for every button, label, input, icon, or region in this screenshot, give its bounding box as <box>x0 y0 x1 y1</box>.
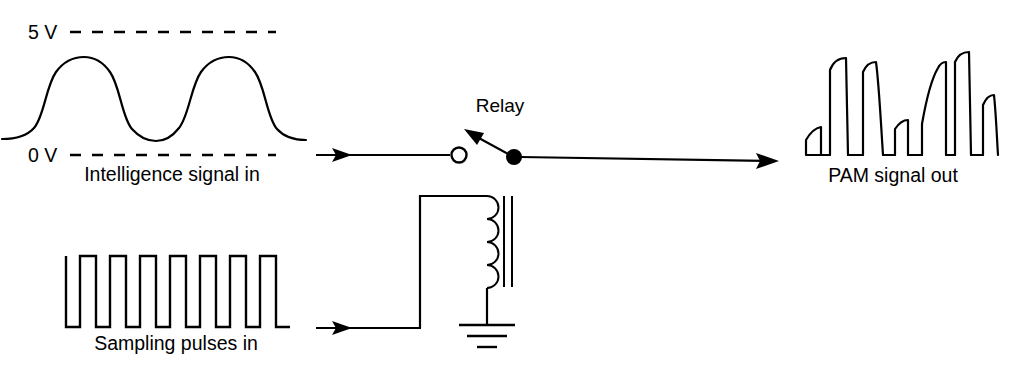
pam-pulse-1 <box>806 127 821 155</box>
relay-coil-icon <box>487 196 499 288</box>
pam-pulse-6 <box>955 52 971 155</box>
intelligence-signal-plot: 5 V 0 V Intelligence signal in <box>2 21 306 185</box>
axis-label-5v: 5 V <box>28 21 57 43</box>
relay-armature-arrowhead <box>464 129 484 145</box>
pam-pulse-4 <box>895 120 908 155</box>
pam-pulse-5 <box>922 62 946 155</box>
relay-coil-assembly <box>420 196 515 347</box>
sampling-pulses-caption: Sampling pulses in <box>94 332 258 354</box>
axis-label-0v: 0 V <box>28 144 57 166</box>
pam-modulator-diagram: 5 V 0 V Intelligence signal in Sampling … <box>0 0 1017 380</box>
relay-label: Relay <box>476 95 525 116</box>
intelligence-signal-caption: Intelligence signal in <box>84 163 260 185</box>
pam-pulse-3 <box>863 62 883 155</box>
sampling-pulses-plot: Sampling pulses in <box>66 256 290 354</box>
pam-output-wire <box>520 153 779 169</box>
pam-signal-caption: PAM signal out <box>828 164 958 186</box>
relay-switch[interactable]: Relay <box>452 95 525 165</box>
pam-pulse-7 <box>983 95 998 155</box>
coil-feed-wire <box>420 196 487 328</box>
relay-open-contact-icon[interactable] <box>452 148 467 163</box>
relay-pivot-icon[interactable] <box>506 149 522 165</box>
sampling-input-wire <box>316 321 421 335</box>
ground-icon <box>459 325 515 347</box>
intelligence-input-wire <box>316 148 450 162</box>
pam-signal-plot: PAM signal out <box>806 52 998 186</box>
pam-wire-line <box>520 157 772 161</box>
figure-canvas: 5 V 0 V Intelligence signal in Sampling … <box>0 0 1017 380</box>
intelligence-waveform <box>2 57 306 141</box>
sampling-pulse-train <box>66 256 290 327</box>
pam-pulse-2 <box>830 58 848 155</box>
relay-armature-line <box>477 137 512 156</box>
